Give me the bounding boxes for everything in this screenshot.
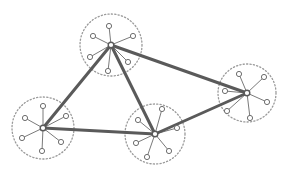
hub-node-right bbox=[244, 90, 250, 96]
leaf-node-top-4 bbox=[125, 59, 130, 64]
spoke-right-5 bbox=[247, 93, 250, 118]
leaf-node-right-5 bbox=[247, 115, 252, 120]
leaf-node-left-2 bbox=[63, 113, 68, 118]
leaf-node-bottom-center-2 bbox=[174, 125, 179, 130]
leaf-node-left-3 bbox=[19, 135, 24, 140]
leaf-node-bottom-center-1 bbox=[135, 117, 140, 122]
leaf-node-top-1 bbox=[90, 33, 95, 38]
backbone-link-bottom-center-right bbox=[155, 93, 247, 134]
leaf-node-bottom-center-0 bbox=[159, 106, 164, 111]
leaf-node-right-1 bbox=[261, 74, 266, 79]
spoke-top-2 bbox=[111, 36, 133, 45]
hub-node-bottom-center bbox=[152, 131, 158, 137]
hub-node-top bbox=[108, 42, 114, 48]
leaf-node-bottom-center-3 bbox=[133, 140, 138, 145]
leaf-node-left-5 bbox=[39, 148, 44, 153]
leaf-node-right-4 bbox=[224, 108, 229, 113]
leaf-node-top-0 bbox=[106, 23, 111, 28]
leaf-node-left-1 bbox=[22, 115, 27, 120]
backbone-link-top-left bbox=[43, 45, 111, 128]
network-diagram bbox=[0, 0, 290, 176]
leaf-node-left-0 bbox=[40, 103, 45, 108]
leaf-node-right-2 bbox=[222, 88, 227, 93]
leaf-node-top-3 bbox=[87, 54, 92, 59]
leaf-node-top-2 bbox=[130, 33, 135, 38]
leaf-node-bottom-center-4 bbox=[166, 148, 171, 153]
leaf-node-right-3 bbox=[264, 99, 269, 104]
leaf-node-top-5 bbox=[105, 68, 110, 73]
spoke-right-1 bbox=[247, 77, 264, 93]
cluster-spokes bbox=[22, 26, 267, 157]
leaf-node-bottom-center-5 bbox=[144, 154, 149, 159]
hub-node-left bbox=[40, 125, 46, 131]
leaf-node-left-4 bbox=[58, 139, 63, 144]
backbone-link-left-bottom-center bbox=[43, 128, 155, 134]
leaf-node-right-0 bbox=[236, 71, 241, 76]
